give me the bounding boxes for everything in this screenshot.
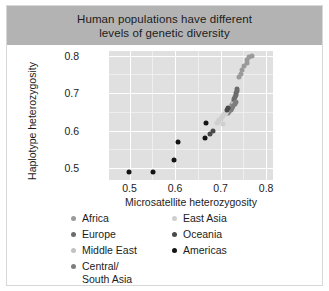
gridline-horizontal-minor bbox=[109, 149, 273, 150]
data-point bbox=[172, 158, 177, 163]
legend-item[interactable]: Africa bbox=[71, 212, 137, 226]
data-point bbox=[127, 169, 132, 174]
gridline-horizontal-minor bbox=[109, 112, 273, 113]
legend-swatch-dot-icon bbox=[172, 248, 177, 253]
legend-item[interactable]: Central/ South Asia bbox=[71, 260, 137, 286]
gridline-horizontal-major bbox=[109, 168, 273, 169]
y-axis-tick-label: 0.6 bbox=[64, 125, 79, 137]
legend-item[interactable]: Middle East bbox=[71, 244, 137, 258]
data-point bbox=[203, 120, 208, 125]
legend-swatch-dot-icon bbox=[172, 216, 177, 221]
legend-item-label: Africa bbox=[82, 212, 109, 225]
data-point bbox=[175, 139, 180, 144]
y-axis-tick-label: 0.8 bbox=[64, 50, 79, 62]
data-point bbox=[150, 169, 155, 174]
gridline-vertical-major bbox=[130, 51, 131, 180]
legend-item-label: East Asia bbox=[183, 212, 227, 225]
legend-item-label: Europe bbox=[82, 228, 116, 241]
x-axis-ticks: 0.50.60.70.8 bbox=[109, 182, 273, 196]
gridline-horizontal-major bbox=[109, 131, 273, 132]
gridline-horizontal-minor bbox=[109, 74, 273, 75]
chart-title-line1: Human populations have different bbox=[77, 13, 252, 25]
x-axis-title: Microsatellite heterozygosity bbox=[109, 196, 273, 208]
data-point bbox=[214, 120, 219, 125]
y-axis-ticks: 0.50.60.70.8 bbox=[7, 51, 107, 180]
legend-swatch-dot-icon bbox=[71, 216, 76, 221]
data-point bbox=[237, 75, 242, 80]
legend-item[interactable]: Europe bbox=[71, 228, 137, 242]
legend-item-label: Americas bbox=[183, 244, 227, 257]
legend-item[interactable]: East Asia bbox=[172, 212, 227, 226]
page-title: Human populations have different levels … bbox=[77, 12, 252, 40]
data-point bbox=[207, 131, 212, 136]
chart-title-band: Human populations have different levels … bbox=[7, 6, 322, 45]
x-axis-tick-label: 0.8 bbox=[259, 182, 274, 194]
y-axis-tick-label: 0.7 bbox=[64, 87, 79, 99]
gridline-vertical-minor bbox=[152, 51, 153, 180]
plot-area: 0.50.60.70.8 Haplotype heterozygosity 0.… bbox=[7, 45, 322, 210]
legend-column-left: AfricaEuropeMiddle EastCentral/ South As… bbox=[71, 212, 137, 288]
data-point bbox=[224, 107, 229, 112]
scatter-panel bbox=[109, 51, 273, 180]
legend-column-right: East AsiaOceaniaAmericas bbox=[172, 212, 227, 260]
y-axis-title: Haplotype heterozygosity bbox=[26, 51, 38, 191]
legend-item[interactable]: Americas bbox=[172, 244, 227, 258]
legend-swatch-dot-icon bbox=[172, 232, 177, 237]
legend-item-label: Middle East bbox=[82, 244, 137, 257]
chart-title-line2: levels of genetic diversity bbox=[77, 26, 252, 40]
x-axis-tick-label: 0.5 bbox=[122, 182, 137, 194]
legend-swatch-dot-icon bbox=[71, 264, 76, 269]
gridline-horizontal-major bbox=[109, 93, 273, 94]
x-axis-tick-label: 0.6 bbox=[168, 182, 183, 194]
gridline-vertical-minor bbox=[198, 51, 199, 180]
legend-item-label: Central/ South Asia bbox=[82, 260, 132, 285]
gridline-vertical-major bbox=[266, 51, 267, 180]
chart-legend: AfricaEuropeMiddle EastCentral/ South As… bbox=[7, 212, 322, 282]
legend-item[interactable]: Oceania bbox=[172, 228, 227, 242]
data-point bbox=[221, 121, 226, 126]
legend-swatch-dot-icon bbox=[71, 248, 76, 253]
legend-swatch-dot-icon bbox=[71, 232, 76, 237]
legend-item-label: Oceania bbox=[183, 228, 222, 241]
y-axis-tick-label: 0.5 bbox=[64, 162, 79, 174]
chart-card: Human populations have different levels … bbox=[6, 5, 323, 286]
x-axis-tick-label: 0.7 bbox=[213, 182, 228, 194]
data-point bbox=[202, 136, 207, 141]
